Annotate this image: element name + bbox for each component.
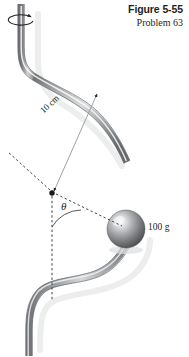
mass-label: 100 g	[148, 222, 169, 232]
radius-dimension-line	[54, 94, 97, 191]
angle-arc	[52, 210, 81, 227]
physics-figure: Figure 5-55 Problem 63 10 cm θ 100 g	[0, 0, 189, 357]
curved-rotating-tube-upper	[18, 4, 130, 164]
pivot-point	[49, 190, 54, 195]
angle-label: θ	[61, 200, 66, 212]
upper-dashed-chord	[8, 152, 50, 190]
bead-sphere	[107, 210, 145, 254]
figure-illustration	[0, 0, 189, 357]
tube-shadow	[38, 14, 150, 350]
problem-number: Problem 63	[128, 17, 183, 28]
figure-caption: Figure 5-55 Problem 63	[128, 4, 183, 28]
figure-number: Figure 5-55	[128, 4, 183, 16]
